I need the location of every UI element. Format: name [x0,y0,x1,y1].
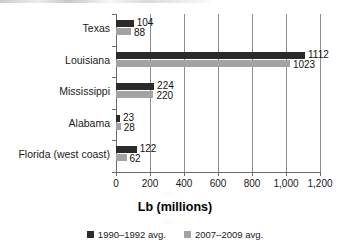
gridline [286,14,287,172]
bar [116,91,153,98]
category-label: Texas [0,23,110,34]
bar [116,123,121,130]
x-axis-tick-label: 1,000 [273,178,298,190]
gridline [184,14,185,172]
x-axis-tick [286,172,287,176]
x-axis-title: Lb (millions) [0,200,350,214]
legend-label: 2007–2009 avg. [195,229,263,240]
x-axis-tick [150,172,151,176]
x-axis-tick-label: 400 [176,178,193,190]
category-label: Louisiana [0,55,110,66]
bar-value-label: 62 [130,154,141,164]
bar-value-label: 122 [140,144,157,154]
bar-chart: TexasLouisianaMississippiAlabamaFlorida … [0,0,350,248]
gridline [252,14,253,172]
category-label: Florida (west coast) [0,149,110,160]
x-axis-tick-label: 200 [142,178,159,190]
legend-swatch-icon [184,231,191,238]
bar [116,115,120,122]
x-axis-tick [116,172,117,176]
x-axis-tick-label: 600 [210,178,227,190]
plot-area: 1048811121023224220232812262 [116,14,320,172]
bar-value-label: 1023 [293,60,315,70]
x-axis-tick-label: 800 [244,178,261,190]
x-axis-tick [320,172,321,176]
chart-legend: 1990–1992 avg.2007–2009 avg. [0,229,350,240]
scan-artifact [0,0,210,3]
x-axis-tick-label: 0 [113,178,119,190]
x-axis-tick [218,172,219,176]
bar-value-label: 28 [124,123,135,133]
category-label: Mississippi [0,86,110,97]
gridline [218,14,219,172]
legend-item[interactable]: 1990–1992 avg. [87,229,166,240]
bar [116,60,290,67]
x-axis-tick-label: 1,200 [307,178,332,190]
bar [116,20,134,27]
bar-value-label: 88 [134,28,145,38]
legend-swatch-icon [87,231,94,238]
legend-label: 1990–1992 avg. [98,229,166,240]
bar [116,154,127,161]
x-axis-tick [252,172,253,176]
category-label: Alabama [0,118,110,129]
legend-item[interactable]: 2007–2009 avg. [184,229,263,240]
bar-value-label: 220 [156,91,173,101]
bar [116,146,137,153]
x-axis-tick [184,172,185,176]
bar [116,83,154,90]
bar [116,52,305,59]
gridline [320,14,321,172]
bar [116,28,131,35]
